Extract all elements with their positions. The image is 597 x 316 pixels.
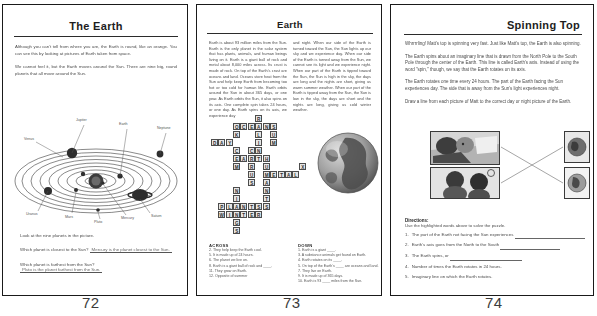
- question-1-answer[interactable]: Mercury is the planet closest to the Sun…: [90, 247, 172, 253]
- question-2-answer[interactable]: Pluto is the planet farthest from the Su…: [20, 267, 102, 273]
- page-number-74: 74: [485, 294, 503, 311]
- intro-paragraph-3: The Earth rotates one time every 24 hour…: [405, 79, 581, 92]
- body-column-right: and night. When our side of the Earth is…: [293, 40, 371, 118]
- crossword-cell[interactable]: S: [263, 203, 270, 210]
- task-number: 5.: [405, 273, 409, 280]
- crossword-cell[interactable]: X: [299, 163, 306, 170]
- page-title-72: The Earth: [10, 20, 182, 32]
- crossword-cell[interactable]: G: [233, 219, 240, 226]
- crossword-cell[interactable]: L: [292, 171, 299, 178]
- clue-item: 10. Earth is 93 ____ miles from the Sun.: [298, 279, 379, 284]
- intro-paragraph-1: Whrrrrling! Matt's top is spinning very …: [405, 41, 581, 48]
- crossword-cell[interactable]: R: [248, 163, 255, 170]
- crossword-cell[interactable]: S: [248, 179, 255, 186]
- crossword-cell[interactable]: U: [263, 163, 270, 170]
- title-rule: [404, 34, 582, 35]
- matching-lines: [412, 131, 588, 205]
- planet-label-pluto: Pluto: [94, 220, 102, 224]
- question-2: Which planet is farthest from the Sun? P…: [20, 262, 175, 273]
- crossword-cell[interactable]: T: [263, 195, 270, 202]
- page-number-72: 72: [82, 294, 100, 311]
- crossword-cell[interactable]: A: [240, 155, 247, 162]
- crossword-cell[interactable]: M: [270, 139, 277, 146]
- crossword-cell[interactable]: H: [263, 155, 270, 162]
- planet-label-earth: Earth: [119, 122, 128, 126]
- earth-globe-photo: [315, 129, 381, 201]
- planet-label-uranus: Uranus: [26, 212, 38, 216]
- crossword-cell[interactable]: I: [255, 139, 262, 146]
- page-title-74: Spinning Top: [398, 19, 588, 31]
- directions-subtext: Use the highlighted words above to solve…: [405, 223, 591, 228]
- crossword-cell[interactable]: S: [233, 227, 240, 234]
- task-number: 4.: [405, 263, 409, 270]
- solar-system-diagram: Jupiter Earth Neptune Venus Uranus Mars …: [14, 107, 179, 227]
- crossword-cell[interactable]: U: [248, 171, 255, 178]
- worksheet-page-73: Earth Earth is about 93 million miles fr…: [196, 4, 382, 296]
- task-number: 2.: [405, 241, 409, 249]
- answer-blank[interactable]: [500, 241, 560, 249]
- worksheet-page-72: The Earth Although you can't tell from w…: [2, 4, 188, 296]
- crossword-cell[interactable]: M: [233, 163, 240, 170]
- answer-blank[interactable]: [515, 231, 585, 239]
- clue-item: 12. Opposite of summer: [209, 274, 290, 279]
- answer-blank[interactable]: [450, 252, 522, 260]
- planet-label-neptune: Neptune: [157, 126, 171, 130]
- crossword-cell[interactable]: T: [255, 155, 262, 162]
- title-rule: [207, 33, 373, 34]
- crossword-cell[interactable]: T: [240, 211, 247, 218]
- intro-paragraph-2: We cannot feel it, but the Earth moves a…: [15, 64, 177, 77]
- crossword-cell[interactable]: L: [255, 131, 262, 138]
- intro-paragraph-2: The Earth spins about an imaginary line …: [405, 54, 581, 74]
- crossword-cell[interactable]: C: [240, 123, 247, 130]
- across-clue-list: ACROSS 2. They help keep the Earth cool.…: [209, 243, 290, 284]
- down-clue-list: DOWN 1. Earth is a giant ____. 3. A subs…: [298, 243, 379, 284]
- question-1-prompt: Which planet is closest to the Sun?: [20, 247, 88, 252]
- crossword-cell[interactable]: Y: [226, 139, 233, 146]
- planet-label-jupiter: Jupiter: [76, 118, 87, 122]
- task-text: Earth's axis goes from the North to the …: [412, 242, 499, 247]
- intro-paragraph-1: Although you can't tell from where you a…: [15, 44, 177, 57]
- worksheet-page-74: Spinning Top Whrrrrling! Matt's top is s…: [390, 4, 594, 296]
- crossword-cell[interactable]: R: [255, 211, 262, 218]
- crossword-cell[interactable]: A: [263, 179, 270, 186]
- planet-label-venus: Venus: [24, 137, 34, 141]
- task-number: 1.: [405, 231, 409, 239]
- crossword-cell[interactable]: P: [218, 203, 225, 210]
- task-number: 3.: [405, 252, 409, 260]
- task-text: The Earth spins, or: [412, 253, 449, 258]
- crossword-cell[interactable]: S: [270, 123, 277, 130]
- crossword-cell[interactable]: U: [270, 131, 277, 138]
- crossword-cell[interactable]: I: [233, 195, 240, 202]
- matching-activity[interactable]: [412, 131, 588, 211]
- planet-label-mercury: Mercury: [121, 216, 134, 220]
- crossword-cell[interactable]: N: [255, 147, 262, 154]
- crossword-cell[interactable]: A: [218, 139, 225, 146]
- crossword-cell[interactable]: R: [255, 115, 262, 122]
- task-text: Number of times the Earth rotates in 24 …: [412, 263, 502, 270]
- crossword-cell[interactable]: S: [255, 203, 262, 210]
- directions-section: Directions: Use the highlighted words ab…: [405, 218, 591, 281]
- page-title-73: Earth: [203, 19, 377, 30]
- title-rule: [14, 36, 178, 37]
- crossword-cell[interactable]: A: [255, 123, 262, 130]
- task-item-5: 5. Imaginary line on which the Earth rot…: [405, 273, 591, 280]
- scanned-worksheet-spread: The Earth Although you can't tell from w…: [0, 0, 597, 316]
- crossword-cell[interactable]: W: [218, 211, 225, 218]
- crossword-cell[interactable]: N: [233, 187, 240, 194]
- task-item-4: 4. Number of times the Earth rotates in …: [405, 263, 591, 270]
- figure-caption: Look at the nine planets in the picture.: [20, 233, 175, 238]
- page-number-73: 73: [283, 294, 301, 311]
- crossword-cell[interactable]: K: [233, 131, 240, 138]
- planet-label-saturn: Saturn: [151, 214, 162, 218]
- question-1: Which planet is closest to the Sun? Merc…: [20, 247, 175, 253]
- body-column-left: Earth is about 93 million miles from the…: [209, 40, 287, 118]
- task-text: The part of the Earth not facing the Sun…: [412, 232, 514, 237]
- task-item-1: 1. The part of the Earth not facing the …: [405, 231, 591, 239]
- task-item-2: 2. Earth's axis goes from the North to t…: [405, 241, 591, 249]
- task-text: Imaginary line on which the Earth rotate…: [412, 273, 493, 280]
- crossword-cell[interactable]: N: [263, 187, 270, 194]
- crossword-cell[interactable]: C: [233, 147, 240, 154]
- crossword-cell[interactable]: E: [270, 171, 277, 178]
- crossword-cell[interactable]: N: [240, 203, 247, 210]
- instruction-paragraph: Draw a line from each picture of Matt to…: [405, 99, 581, 106]
